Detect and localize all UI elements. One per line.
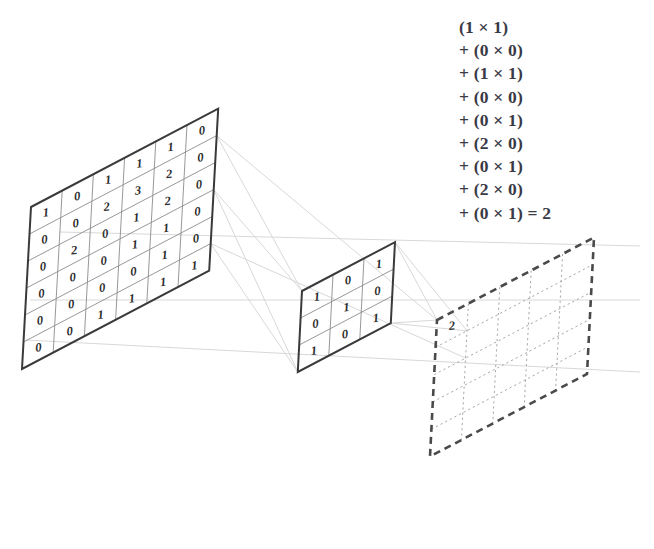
equation-line-3: + (0 × 0): [459, 87, 523, 107]
input-value-r2c4: 2: [163, 194, 172, 209]
input-value-r1c3: 3: [133, 183, 142, 198]
equation-line-5: + (2 × 0): [459, 133, 523, 153]
projection-line-2: [214, 190, 298, 372]
projection-line-1: [214, 190, 302, 291]
convolution-sum: (1 × 1)+ (0 × 0)+ (1 × 1)+ (0 × 0)+ (0 ×…: [459, 17, 551, 223]
equation-line-6: + (0 × 1): [459, 156, 523, 176]
projection-line-0: [217, 136, 302, 291]
figure-canvas: 101110002320020120000110000010001111 101…: [0, 0, 654, 549]
input-value-r1c2: 2: [102, 199, 111, 214]
equation-line-7: + (2 × 0): [459, 179, 523, 199]
input-value-r2c1: 2: [69, 243, 78, 258]
output-value-r0c0: 2: [447, 318, 456, 333]
equation-line-4: + (0 × 1): [459, 110, 523, 130]
projection-line-8: [391, 320, 437, 323]
convolution-kernel: 101010101: [298, 242, 395, 372]
equation-line-1: + (0 × 0): [459, 40, 523, 60]
equation-line-8: + (0 × 1) = 2: [459, 203, 551, 223]
convolution-diagram: 101110002320020120000110000010001111 101…: [0, 0, 654, 549]
input-feature-map: 101110002320020120000110000010001111: [22, 109, 218, 369]
input-value-r1c4: 2: [164, 167, 173, 182]
equation-line-0: (1 × 1): [459, 17, 508, 37]
output-feature-map: 2: [430, 238, 594, 457]
projection-line-5: [395, 242, 437, 320]
equation-line-2: + (1 × 1): [459, 63, 523, 83]
